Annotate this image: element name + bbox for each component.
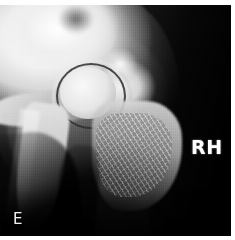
exposure-background — [0, 5, 231, 236]
radiograph-image: RH E — [0, 0, 235, 240]
soft-tissue-mass — [0, 5, 180, 229]
film-border-right — [231, 0, 235, 240]
trabecular-texture — [96, 113, 172, 197]
proximal-femur — [92, 101, 182, 211]
dark-field-bottom — [0, 191, 231, 236]
ilium-bone — [0, 5, 158, 125]
film-border-bottom — [0, 236, 235, 240]
dark-gap-shadow — [55, 144, 102, 236]
soft-tissue-edge — [6, 29, 174, 225]
film-border-top — [0, 0, 235, 5]
side-marker-rh: RH — [191, 138, 223, 157]
greater-trochanter — [98, 61, 160, 117]
acetabular-rim — [52, 59, 132, 135]
trochanter-tip — [104, 49, 138, 79]
film-grain-texture — [0, 5, 231, 236]
iliac-notch — [54, 5, 100, 39]
corner-marker-e: E — [13, 212, 22, 227]
dark-field-right — [150, 5, 231, 236]
radiograph-film-area: RH E — [0, 5, 231, 236]
iliac-crest — [6, 5, 118, 67]
joint-space — [56, 63, 126, 129]
femoral-head — [60, 67, 116, 119]
pubic-ramus — [0, 85, 107, 131]
